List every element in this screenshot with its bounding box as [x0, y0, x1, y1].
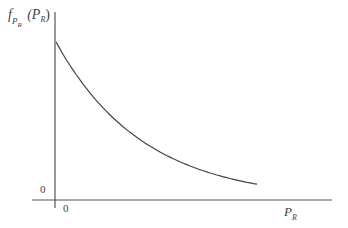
y-label-arg-close: ) — [45, 7, 50, 22]
y-origin-label: 0 — [40, 183, 46, 195]
chart-canvas — [0, 0, 348, 228]
y-label-arg-p: (P — [27, 7, 40, 22]
y-label-argument: (PR) — [27, 7, 50, 22]
y-axis-label: fPR (PR) — [8, 7, 50, 23]
x-label-r: R — [292, 213, 297, 222]
y-label-sub-r: R — [17, 21, 21, 29]
y-label-subscript: PR — [12, 16, 22, 26]
y-label-arg-r: R — [40, 15, 45, 24]
x-label-p: P — [284, 204, 292, 219]
x-axis-label: PR — [284, 204, 297, 220]
x-origin-label: 0 — [63, 202, 69, 214]
density-curve — [56, 42, 257, 184]
